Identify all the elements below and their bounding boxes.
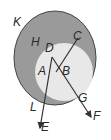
label-l: L — [30, 100, 37, 114]
label-g: G — [78, 91, 87, 105]
label-c: C — [73, 29, 82, 43]
label-d: D — [45, 41, 54, 55]
label-a: A — [37, 64, 46, 78]
label-e: E — [41, 120, 50, 134]
label-h: H — [31, 35, 40, 49]
label-f: F — [93, 109, 101, 123]
diagram-canvas: K H C D A B G L E F — [0, 0, 111, 140]
label-k: K — [13, 15, 22, 29]
label-b: B — [62, 64, 70, 78]
